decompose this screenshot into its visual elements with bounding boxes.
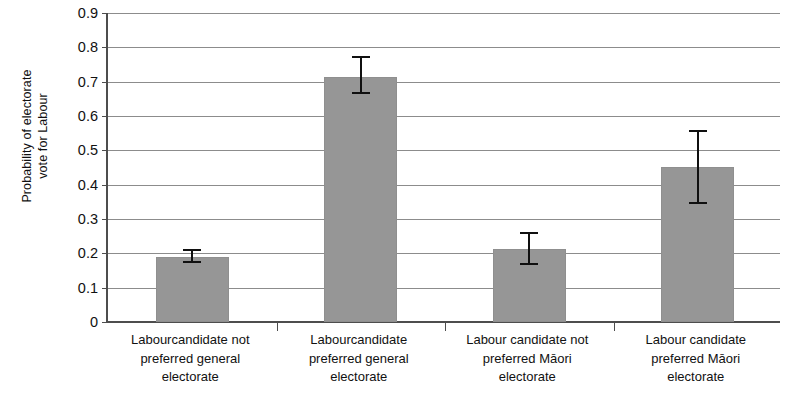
y-tick-label: 0 (58, 315, 98, 329)
error-bar-cap-lower (183, 261, 201, 263)
error-bar-stem (360, 56, 362, 94)
error-bar-cap-upper (520, 232, 538, 234)
y-tick-mark (102, 219, 108, 220)
y-tick-label: 0.4 (58, 178, 98, 192)
y-tick-label: 0.9 (58, 6, 98, 20)
bar-chart: Probability of electorate vote for Labou… (0, 0, 792, 396)
x-category-label: Labour candidate preferred Māori elector… (612, 331, 781, 387)
error-bar-cap-upper (689, 130, 707, 132)
y-tick-mark (102, 150, 108, 151)
y-tick-label: 0.2 (58, 246, 98, 260)
y-tick-mark (102, 13, 108, 14)
x-category-label: Labourcandidate not preferred general el… (106, 331, 275, 387)
error-bar-cap-lower (520, 263, 538, 265)
y-tick-mark (102, 185, 108, 186)
y-tick-mark (102, 47, 108, 48)
gridline (108, 13, 780, 14)
bar (324, 77, 397, 322)
x-category-label: Labourcandidate preferred general electo… (275, 331, 444, 387)
y-tick-label: 0.5 (58, 143, 98, 157)
y-tick-label: 0.8 (58, 40, 98, 54)
y-tick-mark (102, 288, 108, 289)
error-bar-cap-lower (689, 202, 707, 204)
gridline (108, 82, 780, 83)
error-bar-cap-upper (352, 56, 370, 58)
error-bar-stem (697, 130, 699, 204)
y-tick-label: 0.3 (58, 212, 98, 226)
x-tick-mark (614, 322, 615, 331)
x-tick-mark (277, 322, 278, 331)
gridline (108, 47, 780, 48)
gridline (108, 116, 780, 117)
error-bar-stem (528, 232, 530, 265)
y-axis-title: Probability of electorate vote for Labou… (19, 16, 51, 256)
x-category-label: Labour candidate not preferred Māori ele… (443, 331, 612, 387)
x-tick-mark (445, 322, 446, 331)
y-tick-mark (102, 322, 108, 323)
y-tick-label: 0.7 (58, 75, 98, 89)
bar (156, 257, 229, 322)
error-bar-cap-lower (352, 92, 370, 94)
error-bar-cap-upper (183, 249, 201, 251)
y-tick-label: 0.1 (58, 281, 98, 295)
y-tick-mark (102, 253, 108, 254)
y-tick-label: 0.6 (58, 109, 98, 123)
gridline (108, 150, 780, 151)
y-tick-mark (102, 82, 108, 83)
y-tick-mark (102, 116, 108, 117)
plot-area (106, 13, 780, 322)
x-axis-category-labels: Labourcandidate not preferred general el… (106, 331, 780, 393)
